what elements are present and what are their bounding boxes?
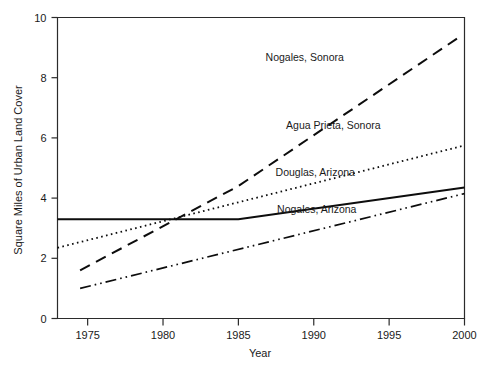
series-label: Agua Prieta, Sonora	[286, 119, 381, 131]
x-tick-label: 1980	[151, 329, 175, 341]
y-tick-label: 8	[40, 72, 46, 84]
x-tick-label: 1985	[226, 329, 250, 341]
chart-canvas: 0246810 197519801985199019952000 Nogales…	[0, 0, 483, 368]
series-label: Nogales, Arizona	[277, 203, 357, 215]
x-axis-title: Year	[249, 347, 272, 359]
y-axis-title: Square Miles of Urban Land Cover	[12, 85, 24, 255]
series-label: Nogales, Sonora	[266, 51, 344, 63]
series-label: Douglas, Arizona	[276, 166, 356, 178]
y-tick-label: 2	[40, 252, 46, 264]
x-tick-label: 1975	[75, 329, 99, 341]
x-tick-label: 1990	[302, 329, 326, 341]
y-tick-label: 4	[40, 192, 46, 204]
x-tick-label: 1995	[377, 329, 401, 341]
x-tick-label: 2000	[452, 329, 476, 341]
y-tick-label: 6	[40, 132, 46, 144]
y-tick-label: 0	[40, 313, 46, 325]
y-tick-label: 10	[34, 12, 46, 24]
line-chart: 0246810 197519801985199019952000 Nogales…	[0, 0, 483, 368]
